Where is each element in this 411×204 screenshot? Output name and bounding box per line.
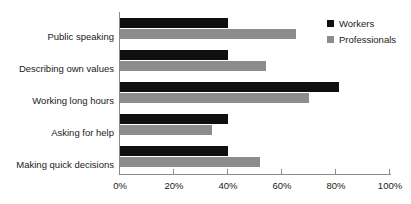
chart-legend: Workers Professionals	[327, 16, 396, 48]
legend-label: Workers	[339, 18, 374, 29]
x-axis-tick-label: 100%	[378, 180, 402, 191]
x-axis-tick	[227, 169, 228, 175]
x-axis-tick	[281, 169, 282, 175]
legend-label: Professionals	[339, 34, 396, 45]
bar-professionals	[120, 157, 260, 167]
x-axis-tick	[335, 169, 336, 175]
x-axis-tick-label: 40%	[218, 180, 237, 191]
bar-workers	[120, 82, 339, 92]
x-axis-tick-label: 60%	[272, 180, 291, 191]
legend-item-professionals: Professionals	[327, 32, 396, 46]
x-axis-tick	[389, 169, 390, 175]
x-axis-line	[119, 174, 391, 175]
x-axis-tick-label: 20%	[164, 180, 183, 191]
bar-professionals	[120, 125, 212, 135]
bar-professionals	[120, 61, 266, 71]
bar-professionals	[120, 93, 309, 103]
bar-workers	[120, 50, 228, 60]
x-axis-tick-label: 80%	[326, 180, 345, 191]
legend-swatch-icon	[327, 36, 334, 43]
category-label: Working long hours	[0, 95, 114, 106]
bar-workers	[120, 114, 228, 124]
x-axis-tick-label: 0%	[113, 180, 127, 191]
x-axis-tick	[119, 169, 120, 175]
bar-workers	[120, 18, 228, 28]
category-label: Making quick decisions	[0, 159, 114, 170]
bar-workers	[120, 146, 228, 156]
x-axis-tick	[173, 169, 174, 175]
category-axis-labels: Public speaking Describing own values Wo…	[0, 14, 114, 174]
legend-swatch-icon	[327, 20, 334, 27]
category-label: Asking for help	[0, 127, 114, 138]
category-label: Describing own values	[0, 63, 114, 74]
bar-chart: Public speaking Describing own values Wo…	[0, 0, 411, 204]
legend-item-workers: Workers	[327, 16, 396, 30]
category-label: Public speaking	[0, 31, 114, 42]
y-axis-line	[119, 12, 120, 174]
bar-professionals	[120, 29, 296, 39]
